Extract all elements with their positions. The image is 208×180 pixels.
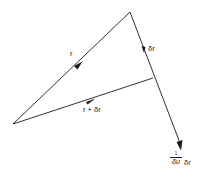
- label-r: r: [70, 50, 73, 58]
- vector-r-plus-dr-line: [13, 78, 153, 124]
- vector-scaled-dr-arrowhead-icon: [177, 140, 183, 151]
- label-delta-r: δr: [148, 45, 155, 53]
- label-scaled-fraction: 1 δu: [170, 152, 182, 165]
- vector-r-arrowhead-icon: [74, 62, 83, 70]
- fraction-denominator: δu: [170, 157, 182, 166]
- label-r-plus-delta-r: r + δr: [83, 106, 101, 114]
- label-scaled-delta-r: δr: [184, 159, 191, 167]
- vector-scaled-dr-line: [130, 12, 180, 143]
- vector-r-line: [13, 12, 130, 124]
